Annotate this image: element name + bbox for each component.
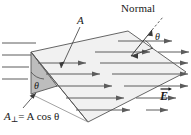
efield-letter: E bbox=[160, 89, 168, 103]
arrowhead bbox=[122, 107, 130, 112]
aperp-equation-rhs: = A cos θ bbox=[18, 110, 59, 122]
arrowhead bbox=[160, 107, 168, 112]
vector-arrow-icon bbox=[160, 85, 172, 91]
normal-label: Normal bbox=[121, 3, 155, 14]
normal-vector-arrowhead bbox=[148, 30, 153, 36]
theta-label-normal: θ bbox=[155, 32, 160, 42]
flux-diagram-figure: Normal A θ θ A⊥= A cos θ E bbox=[0, 0, 191, 135]
arrowhead bbox=[181, 49, 189, 54]
arrowhead bbox=[164, 38, 172, 43]
aperp-symbol: A bbox=[4, 110, 11, 122]
theta-label-face: θ bbox=[34, 81, 39, 91]
efield-glyph-wrap: E bbox=[160, 88, 168, 102]
normal-leader-dashed bbox=[152, 17, 163, 30]
efield-vector-label: E bbox=[160, 88, 168, 102]
arrowhead bbox=[168, 95, 176, 100]
arrowhead bbox=[180, 60, 188, 65]
aperp-equation-label: A⊥= A cos θ bbox=[4, 111, 59, 124]
area-label-A: A bbox=[77, 15, 84, 26]
arrowhead bbox=[180, 83, 188, 88]
